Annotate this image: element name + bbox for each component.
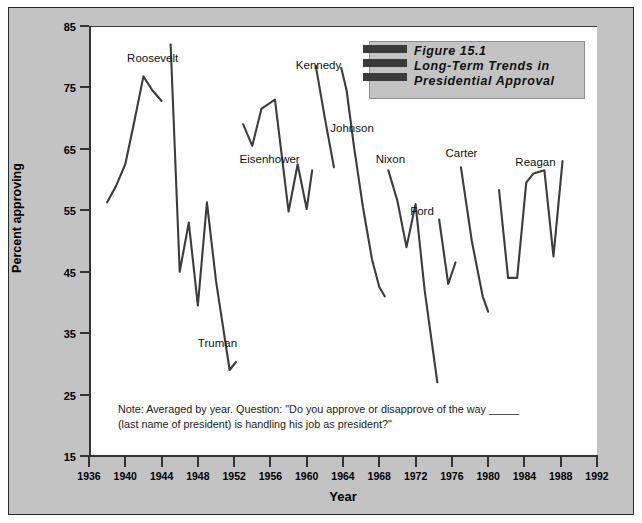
x-tick-label: 1968 [368, 470, 391, 482]
y-axis-title: Percent approving [10, 163, 24, 273]
x-tick-label: 1944 [150, 470, 173, 482]
series-label-johnson: Johnson [330, 122, 373, 134]
x-tick-label: 1984 [513, 470, 536, 482]
series-label-eisenhower: Eisenhower [240, 153, 300, 165]
series-label-kennedy: Kennedy [296, 59, 341, 71]
x-tick [88, 457, 90, 467]
x-tick-label: 1964 [331, 470, 354, 482]
y-tick-label: 55 [40, 201, 76, 219]
x-tick-label: 1940 [114, 470, 137, 482]
x-tick-label: 1976 [440, 470, 463, 482]
title-bar-1 [363, 45, 407, 53]
title-bar-3 [363, 73, 407, 81]
x-tick-label: 1960 [295, 470, 318, 482]
figure-title-text: Figure 15.1 Long-Term Trends in Presiden… [414, 44, 555, 89]
x-tick-label: 1952 [222, 470, 245, 482]
figure-note: Note: Averaged by year. Question: "Do yo… [118, 402, 538, 432]
y-tick-label: 15 [40, 447, 76, 465]
x-tick [487, 457, 489, 467]
x-tick [342, 457, 344, 467]
y-tick-label: 35 [40, 324, 76, 342]
series-label-ford: Ford [410, 205, 434, 217]
series-label-nixon: Nixon [376, 153, 405, 165]
series-label-roosevelt: Roosevelt [127, 52, 178, 64]
x-tick [378, 457, 380, 467]
y-tick-label: 65 [40, 140, 76, 158]
x-tick [523, 457, 525, 467]
x-tick [124, 457, 126, 467]
x-tick [596, 457, 598, 467]
x-tick [161, 457, 163, 467]
y-tick-label: 45 [40, 263, 76, 281]
figure-title-bars [363, 45, 407, 87]
x-axis-title: Year [329, 489, 356, 504]
series-label-carter: Carter [446, 147, 478, 159]
y-tick [80, 209, 89, 211]
x-tick-label: 1988 [549, 470, 572, 482]
x-tick-label: 1972 [404, 470, 427, 482]
y-axis-line [89, 26, 91, 457]
x-tick [415, 457, 417, 467]
y-tick [80, 271, 89, 273]
x-tick-label: 1956 [259, 470, 282, 482]
figure-root: Percent approving Year 1525354555657585 … [0, 0, 642, 523]
x-tick-label: 1980 [476, 470, 499, 482]
x-tick [233, 457, 235, 467]
y-tick [80, 86, 89, 88]
y-tick-label: 75 [40, 78, 76, 96]
y-tick [80, 25, 89, 27]
x-tick [306, 457, 308, 467]
y-tick [80, 148, 89, 150]
figure-title-line-1: Figure 15.1 [414, 44, 555, 59]
y-tick-label: 25 [40, 386, 76, 404]
x-tick-label: 1992 [585, 470, 608, 482]
title-bar-2 [363, 59, 407, 67]
x-tick-label: 1936 [77, 470, 100, 482]
y-tick [80, 332, 89, 334]
x-tick [269, 457, 271, 467]
x-tick [560, 457, 562, 467]
series-label-truman: Truman [198, 337, 237, 349]
series-label-reagan: Reagan [515, 156, 555, 168]
y-tick-label: 85 [40, 17, 76, 35]
y-tick [80, 394, 89, 396]
x-tick [451, 457, 453, 467]
figure-title-line-2: Long-Term Trends in [414, 59, 555, 74]
x-tick [197, 457, 199, 467]
figure-title-line-3: Presidential Approval [414, 74, 555, 89]
x-tick-label: 1948 [186, 470, 209, 482]
